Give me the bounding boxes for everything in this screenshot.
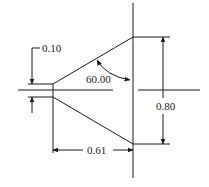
angle-label: 60.00 (86, 73, 111, 85)
technical-drawing: 0.10 60.00 0.80 0.61 (0, 0, 209, 187)
tip-leader-top (32, 48, 40, 84)
tip-opening-label: 0.10 (42, 42, 62, 54)
length-label: 0.61 (87, 144, 106, 156)
base-diameter-label: 0.80 (156, 100, 176, 112)
cone-bottom-edge (53, 97, 133, 144)
